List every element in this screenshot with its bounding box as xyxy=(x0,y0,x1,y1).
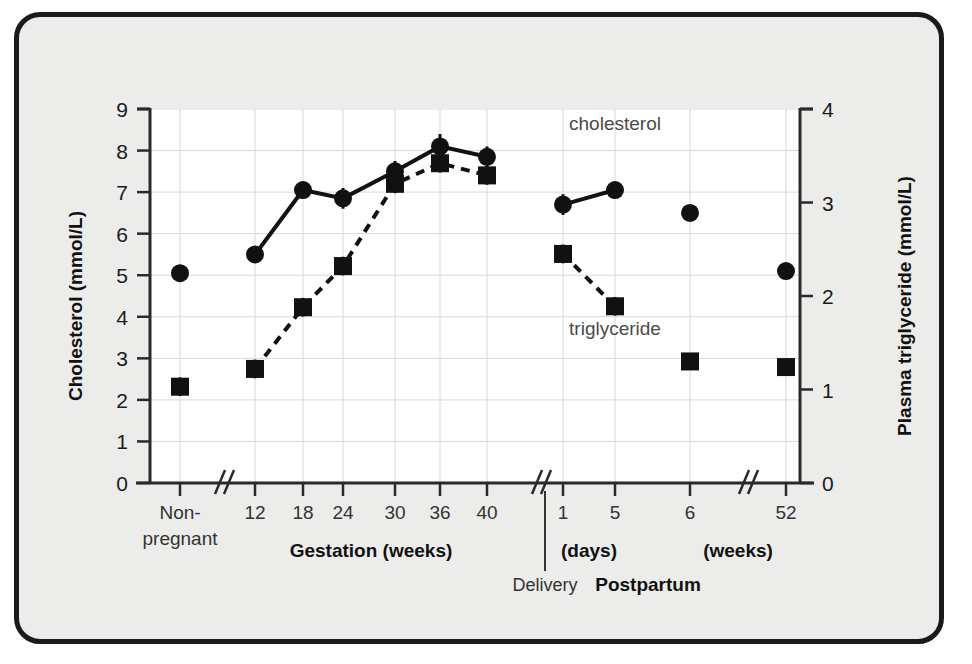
x-group-label-postpartum: Postpartum xyxy=(595,574,701,595)
x-group-label-weeks: (weeks) xyxy=(703,540,773,561)
chart-svg: 012345678901234Non-pregnant1218243036401… xyxy=(0,0,972,664)
y2-tick-label: 4 xyxy=(822,98,834,121)
data-point-square-triglyceride xyxy=(171,378,189,396)
data-point-square-triglyceride xyxy=(777,358,795,376)
x-tick-label: 5 xyxy=(610,502,621,523)
y-tick-label: 2 xyxy=(116,389,128,412)
data-point-square-triglyceride xyxy=(334,257,352,275)
delivery-marker-label: Delivery xyxy=(512,575,577,595)
data-point-square-triglyceride xyxy=(431,154,449,172)
data-point-square-triglyceride xyxy=(294,298,312,316)
data-point-circle-cholesterol xyxy=(246,245,264,263)
data-point-circle-cholesterol xyxy=(334,189,352,207)
x-tick-label: pregnant xyxy=(142,528,218,549)
data-point-square-triglyceride xyxy=(606,297,624,315)
y2-axis-title: Plasma triglyceride (mmol/L) xyxy=(894,136,916,476)
plot-area-background xyxy=(150,108,800,483)
data-point-circle-cholesterol xyxy=(431,137,449,155)
x-group-label-days: (days) xyxy=(561,540,617,561)
series-annotation-triglyceride: triglyceride xyxy=(569,318,661,339)
y-axis-title: Cholesterol (mmol/L) xyxy=(65,156,87,456)
x-tick-label: 52 xyxy=(775,502,796,523)
y-tick-label: 6 xyxy=(116,223,128,246)
y-tick-label: 4 xyxy=(116,306,128,329)
data-point-circle-cholesterol xyxy=(777,262,795,280)
data-point-square-triglyceride xyxy=(554,245,572,263)
data-point-square-triglyceride xyxy=(681,352,699,370)
y-tick-label: 0 xyxy=(116,472,128,495)
data-point-square-triglyceride xyxy=(246,360,264,378)
data-point-circle-cholesterol xyxy=(681,204,699,222)
data-point-square-triglyceride xyxy=(386,175,404,193)
x-tick-label: 30 xyxy=(384,502,405,523)
figure-canvas: 012345678901234Non-pregnant1218243036401… xyxy=(0,0,972,664)
series-annotation-cholesterol: cholesterol xyxy=(569,113,661,134)
data-point-square-triglyceride xyxy=(478,166,496,184)
y-tick-label: 3 xyxy=(116,347,128,370)
data-point-circle-cholesterol xyxy=(554,196,572,214)
y-tick-label: 9 xyxy=(116,98,128,121)
y-tick-label: 1 xyxy=(116,430,128,453)
y2-tick-label: 2 xyxy=(822,285,834,308)
data-point-circle-cholesterol xyxy=(171,264,189,282)
data-point-circle-cholesterol xyxy=(478,148,496,166)
data-point-circle-cholesterol xyxy=(606,181,624,199)
x-tick-label: 6 xyxy=(685,502,696,523)
y2-tick-label: 0 xyxy=(822,472,834,495)
x-group-label-gestation: Gestation (weeks) xyxy=(290,540,453,561)
y-tick-label: 5 xyxy=(116,264,128,287)
y-tick-label: 8 xyxy=(116,140,128,163)
x-tick-label: 40 xyxy=(476,502,497,523)
x-tick-label: 12 xyxy=(244,502,265,523)
x-tick-label: 36 xyxy=(429,502,450,523)
x-tick-label: Non- xyxy=(159,502,200,523)
y2-tick-label: 1 xyxy=(822,379,834,402)
x-tick-label: 24 xyxy=(332,502,354,523)
x-tick-label: 1 xyxy=(558,502,569,523)
data-point-circle-cholesterol xyxy=(294,181,312,199)
y-tick-label: 7 xyxy=(116,181,128,204)
x-tick-label: 18 xyxy=(292,502,313,523)
y2-tick-label: 3 xyxy=(822,192,834,215)
